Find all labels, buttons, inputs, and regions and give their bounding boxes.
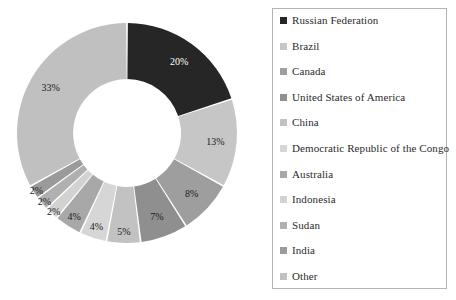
- slice-data-label: 13%: [206, 136, 224, 147]
- legend-item[interactable]: Indonesia: [280, 194, 440, 205]
- slice-data-label: 2%: [47, 206, 60, 217]
- legend-item[interactable]: Canada: [280, 66, 440, 77]
- legend-item-label: Other: [292, 271, 318, 282]
- legend-item-list: Russian FederationBrazilCanadaUnited Sta…: [280, 15, 440, 282]
- legend-color-swatch: [280, 222, 287, 229]
- legend-item[interactable]: Australia: [280, 169, 440, 180]
- chart-legend: Russian FederationBrazilCanadaUnited Sta…: [272, 8, 447, 289]
- legend-color-swatch: [280, 273, 287, 280]
- legend-item-label: Russian Federation: [292, 15, 378, 26]
- slice-data-label: 4%: [67, 211, 80, 222]
- legend-item[interactable]: United States of America: [280, 92, 440, 103]
- donut-chart: 20%13%8%7%5%4%4%2%2%2%33%: [0, 0, 262, 300]
- legend-color-swatch: [280, 119, 287, 126]
- legend-item-label: China: [292, 117, 319, 128]
- legend-color-swatch: [280, 171, 287, 178]
- chart-page: 20%13%8%7%5%4%4%2%2%2%33% Russian Federa…: [0, 0, 456, 300]
- slice-data-label: 5%: [117, 226, 130, 237]
- legend-item[interactable]: India: [280, 245, 440, 256]
- legend-color-swatch: [280, 94, 287, 101]
- donut-chart-svg: 20%13%8%7%5%4%4%2%2%2%33%: [0, 0, 262, 300]
- legend-item-label: United States of America: [292, 92, 405, 103]
- legend-color-swatch: [280, 247, 287, 254]
- legend-item[interactable]: Russian Federation: [280, 15, 440, 26]
- slice-data-label: 20%: [170, 56, 188, 67]
- legend-item[interactable]: Brazil: [280, 41, 440, 52]
- legend-item[interactable]: Sudan: [280, 220, 440, 231]
- legend-color-swatch: [280, 43, 287, 50]
- legend-item-label: Sudan: [292, 220, 320, 231]
- legend-item[interactable]: China: [280, 117, 440, 128]
- legend-item-label: Canada: [292, 66, 326, 77]
- legend-color-swatch: [280, 17, 287, 24]
- legend-item[interactable]: Other: [280, 271, 440, 282]
- legend-item-label: Brazil: [292, 41, 319, 52]
- legend-color-swatch: [280, 145, 287, 152]
- donut-slice[interactable]: [17, 23, 127, 185]
- legend-item-label: Indonesia: [292, 194, 336, 205]
- slice-data-label: 7%: [150, 211, 163, 222]
- slice-data-label: 8%: [185, 188, 198, 199]
- legend-item-label: Australia: [292, 169, 333, 180]
- legend-item-label: India: [292, 245, 315, 256]
- slice-data-label: 2%: [38, 196, 51, 207]
- donut-slice[interactable]: [127, 23, 231, 116]
- slice-data-label: 4%: [90, 221, 103, 232]
- legend-item[interactable]: Democratic Republic of the Congo: [280, 143, 440, 154]
- legend-color-swatch: [280, 196, 287, 203]
- slice-data-label: 33%: [42, 82, 60, 93]
- legend-color-swatch: [280, 68, 287, 75]
- legend-item-label: Democratic Republic of the Congo: [292, 143, 449, 154]
- slice-data-label: 2%: [30, 185, 43, 196]
